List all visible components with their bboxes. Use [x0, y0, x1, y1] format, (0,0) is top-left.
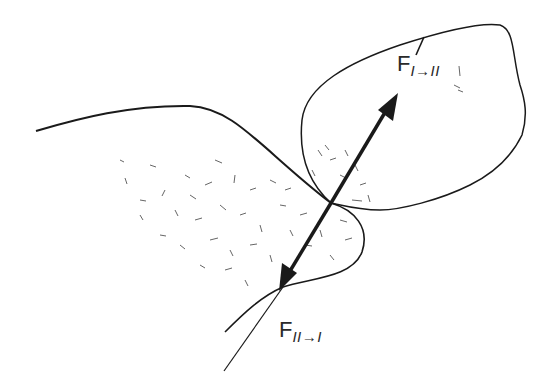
force-label-II-to-I: FII→I [279, 319, 322, 344]
contact-force-diagram [0, 0, 549, 391]
force-symbol: F [397, 51, 410, 76]
force-symbol: F [279, 317, 292, 342]
force-subscript: II→I [292, 328, 322, 345]
force-label-I-to-II: FI→II [397, 53, 440, 78]
force-arrow-II-to-I [287, 203, 331, 276]
force-subscript: I→II [410, 62, 440, 79]
body-I-top-outline [36, 106, 331, 203]
reference-line [224, 287, 283, 371]
body-II-stipple [312, 66, 463, 202]
force-arrow-I-to-II [331, 104, 390, 203]
body-I-lower-lobe-outline [225, 203, 364, 332]
